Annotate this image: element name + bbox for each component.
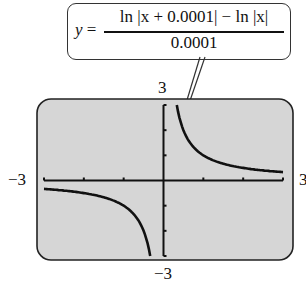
- graph-screen: [0, 0, 306, 290]
- ymax-label: 3: [158, 78, 167, 98]
- xmin-label: −3: [8, 170, 26, 190]
- xmax-label: 3: [299, 170, 306, 190]
- ymin-label: −3: [154, 264, 172, 284]
